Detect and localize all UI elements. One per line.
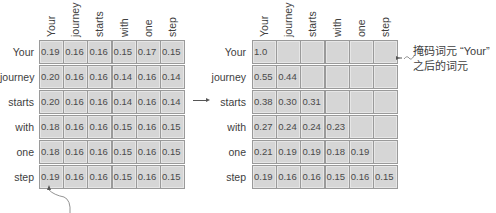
column-header: Your — [39, 1, 63, 37]
matrix-cell: 0.15 — [373, 165, 398, 189]
matrix-cell — [325, 90, 350, 114]
matrix-cell — [349, 40, 374, 64]
row-header: with — [0, 115, 246, 139]
bottom-annotation-pointer-icon — [42, 183, 82, 213]
column-header-label: journey — [282, 3, 294, 37]
column-header-label: one — [355, 19, 367, 37]
column-header: step — [373, 1, 397, 37]
matrix-cell — [373, 65, 398, 89]
row-header: step — [0, 165, 246, 189]
column-header-label: step — [379, 17, 391, 37]
matrix-cell: 0.19 — [300, 140, 325, 164]
matrix-cell: 0.18 — [325, 140, 350, 164]
column-header-label: step — [166, 17, 178, 37]
matrix-cell: 0.19 — [276, 140, 301, 164]
matrix-cell: 0.38 — [252, 90, 277, 114]
column-header-label: with — [118, 18, 130, 37]
column-header-label: with — [331, 18, 343, 37]
column-header-label: starts — [306, 11, 318, 37]
matrix-cell: 0.19 — [252, 165, 277, 189]
matrix-cell: 0.15 — [325, 165, 350, 189]
annotation-line-2: 之后的词元 — [413, 59, 490, 74]
matrix-cell: 0.21 — [252, 140, 277, 164]
matrix-cell: 0.27 — [252, 115, 277, 139]
column-header: with — [112, 1, 136, 37]
matrix-cell: 0.16 — [300, 165, 325, 189]
column-header-label: one — [142, 19, 154, 37]
column-header: Your — [252, 1, 276, 37]
matrix-cell: 0.55 — [252, 65, 277, 89]
matrix-cell — [349, 115, 374, 139]
column-header: starts — [87, 1, 111, 37]
column-header-label: journey — [69, 3, 81, 37]
matrix-cell: 0.16 — [349, 165, 374, 189]
matrix-cell: 0.23 — [325, 115, 350, 139]
matrix-cell: 0.31 — [300, 90, 325, 114]
row-header: journey — [0, 65, 246, 89]
matrix-cell — [300, 65, 325, 89]
column-header: with — [325, 1, 349, 37]
matrix-cell: 0.16 — [276, 165, 301, 189]
matrix-cell: 0.24 — [276, 115, 301, 139]
column-header: journey — [276, 1, 300, 37]
matrix-cell — [373, 115, 398, 139]
column-header-label: starts — [93, 11, 105, 37]
matrix-cell — [325, 65, 350, 89]
matrix-cell: 0.19 — [349, 140, 374, 164]
matrix-cell — [300, 40, 325, 64]
mask-annotation: 掩码词元 “Your” 之后的词元 — [413, 44, 490, 74]
matrix-cell — [373, 140, 398, 164]
matrix-cell — [349, 65, 374, 89]
matrix-cell: 0.24 — [300, 115, 325, 139]
matrix-cell — [373, 40, 398, 64]
column-header: one — [136, 1, 160, 37]
column-header: step — [160, 1, 184, 37]
column-header-label: Your — [45, 16, 57, 37]
column-header: journey — [63, 1, 87, 37]
column-header: starts — [300, 1, 324, 37]
matrix-cell — [373, 90, 398, 114]
matrix-cell: 0.30 — [276, 90, 301, 114]
matrix-cell: 1.0 — [252, 40, 277, 64]
column-header: one — [349, 1, 373, 37]
row-header: one — [0, 140, 246, 164]
row-header: Your — [0, 40, 246, 64]
matrix-cell — [325, 40, 350, 64]
row-header: starts — [0, 90, 246, 114]
column-header-label: Your — [258, 16, 270, 37]
annotation-line-1: 掩码词元 “Your” — [413, 44, 490, 59]
matrix-cell — [276, 40, 301, 64]
matrix-cell: 0.44 — [276, 65, 301, 89]
matrix-cell — [349, 90, 374, 114]
